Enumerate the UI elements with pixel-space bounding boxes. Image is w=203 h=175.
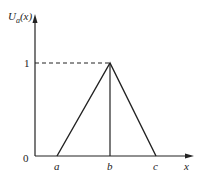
membership-diagram: Ua(x) 1 0 a b c x — [0, 0, 203, 175]
y-axis-label: Ua(x) — [8, 10, 32, 25]
x-point-c: c — [153, 160, 158, 172]
origin-label: 0 — [23, 152, 29, 164]
y-axis-arrow-icon — [33, 14, 38, 23]
membership-triangle — [57, 63, 156, 156]
x-axis-arrow-icon — [185, 154, 194, 159]
x-point-b: b — [107, 160, 113, 172]
x-point-a: a — [54, 160, 60, 172]
y-tick-1: 1 — [24, 57, 30, 69]
x-axis-label: x — [183, 160, 189, 172]
